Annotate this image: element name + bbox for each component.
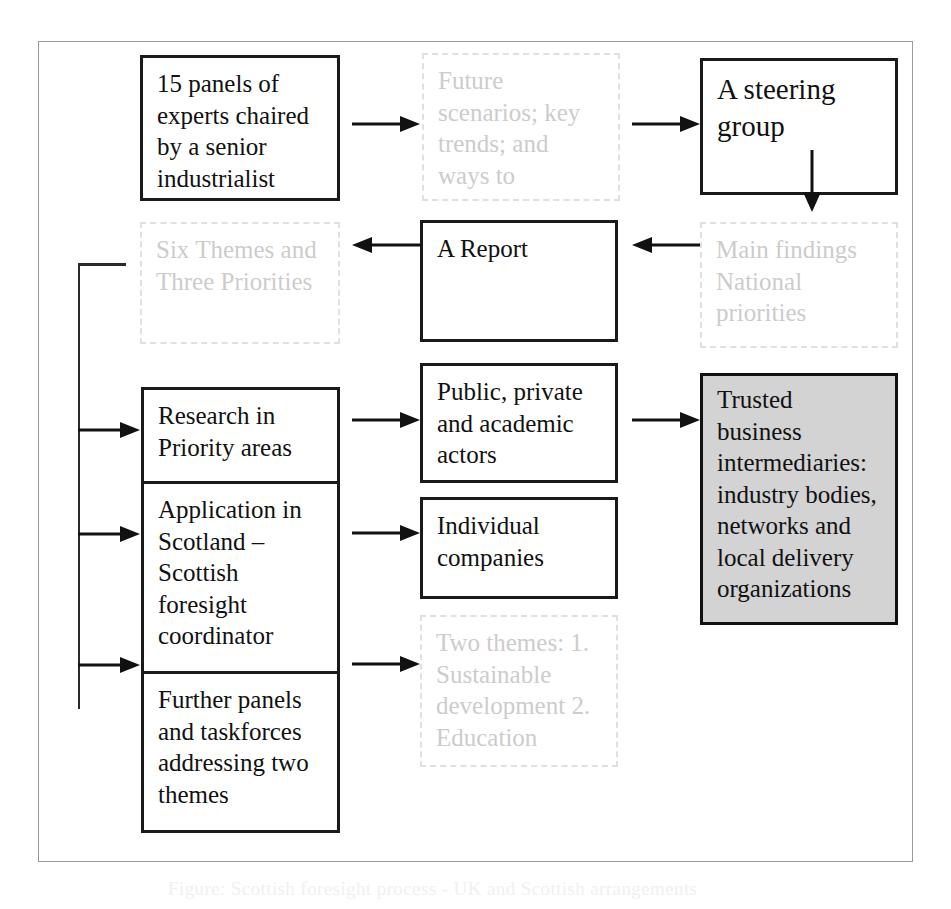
box-steering-group-label: A steering group	[717, 73, 835, 142]
box-application-scotland[interactable]: Application in Scotland – Scottish fores…	[144, 481, 337, 671]
arrow-public-private-to-trusted	[632, 409, 700, 431]
arrow-bracket-to-further-panels	[78, 654, 140, 676]
box-main-findings[interactable]: Main findings National priorities	[700, 222, 898, 348]
diagram-canvas: 15 panels of experts chaired by a senior…	[0, 0, 951, 909]
box-future-scenarios[interactable]: Future scenarios; key trends; and ways t…	[422, 53, 620, 201]
box-six-themes-label: Six Themes and Three Priorities	[156, 236, 317, 295]
arrow-application-to-individual-companies	[352, 522, 420, 544]
arrow-report-to-six-themes	[352, 234, 420, 256]
box-trusted-intermediaries[interactable]: Trusted business intermediaries: industr…	[700, 373, 898, 625]
box-future-scenarios-label: Future scenarios; key trends; and ways t…	[438, 67, 580, 189]
box-trusted-intermediaries-label: Trusted business intermediaries: industr…	[717, 386, 877, 602]
arrow-bracket-to-research	[78, 419, 140, 441]
box-research-priority[interactable]: Research in Priority areas	[144, 390, 337, 481]
box-public-private-label: Public, private and academic actors	[437, 378, 583, 468]
box-two-themes[interactable]: Two themes: 1. Sustainable development 2…	[420, 615, 618, 767]
box-further-panels-label: Further panels and taskforces addressing…	[158, 686, 309, 808]
bracket-top-segment	[78, 263, 126, 266]
box-six-themes[interactable]: Six Themes and Three Priorities	[140, 222, 340, 344]
box-a-report-label: A Report	[437, 235, 528, 262]
caption-fragment: Figure: Scottish foresight process - UK …	[168, 878, 868, 900]
arrow-steering-group-down	[800, 150, 824, 212]
box-research-priority-label: Research in Priority areas	[158, 402, 292, 461]
arrow-main-findings-to-report	[632, 234, 700, 256]
arrow-research-to-public-private	[352, 409, 420, 431]
box-individual-companies[interactable]: Individual companies	[420, 497, 618, 599]
box-further-panels[interactable]: Further panels and taskforces addressing…	[144, 671, 337, 830]
box-panels[interactable]: 15 panels of experts chaired by a senior…	[140, 55, 340, 201]
box-main-findings-label: Main findings National priorities	[716, 236, 857, 326]
arrow-panels-to-future-scenarios	[352, 113, 420, 135]
box-a-report[interactable]: A Report	[420, 220, 618, 342]
bracket-vertical-segment	[78, 263, 80, 709]
box-public-private[interactable]: Public, private and academic actors	[420, 363, 618, 483]
box-panels-label: 15 panels of experts chaired by a senior…	[157, 70, 309, 192]
box-two-themes-label: Two themes: 1. Sustainable development 2…	[436, 629, 590, 751]
box-individual-companies-label: Individual companies	[437, 512, 544, 571]
arrow-further-panels-to-two-themes	[352, 653, 420, 675]
box-steering-group[interactable]: A steering group	[700, 58, 898, 195]
arrow-bracket-to-application	[78, 523, 140, 545]
left-column-stack: Research in Priority areas Application i…	[141, 387, 340, 833]
arrow-future-scenarios-to-steering-group	[632, 113, 700, 135]
box-application-scotland-label: Application in Scotland – Scottish fores…	[158, 496, 302, 649]
